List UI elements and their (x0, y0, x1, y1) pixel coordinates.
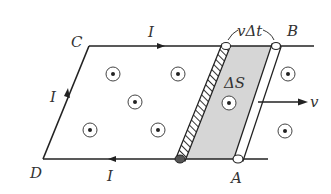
label-current-bottom: I (106, 167, 114, 185)
arrow-bottom-icon (108, 156, 116, 162)
label-d: D (29, 164, 42, 182)
velocity-arrowhead-icon (298, 99, 308, 106)
label-displacement: vΔt (237, 22, 263, 40)
displacement-brace-right (263, 30, 274, 40)
label-b: B (286, 22, 298, 40)
label-c: C (71, 33, 83, 51)
label-a: A (229, 169, 242, 187)
label-current-left: I (49, 88, 57, 106)
label-velocity: v (310, 93, 319, 111)
label-current-top: I (147, 23, 155, 41)
label-area: ΔS (223, 74, 245, 92)
arrow-top-icon (157, 43, 165, 49)
diagram-canvas: C D A B I I I vΔt ΔS v (0, 0, 331, 194)
